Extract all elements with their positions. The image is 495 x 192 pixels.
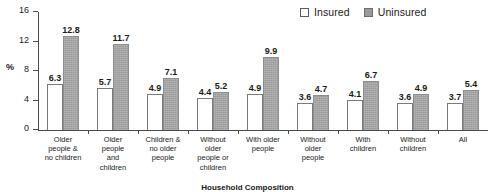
x-axis-title: Household Composition — [0, 183, 495, 192]
bar-value-label: 5.4 — [465, 79, 478, 89]
bar-uninsured: 9.9 — [263, 57, 279, 130]
category-label: With olderpeople — [238, 135, 288, 153]
bar-insured: 3.6 — [297, 103, 313, 130]
bar-value-label: 4.9 — [249, 83, 262, 93]
x-tick — [88, 130, 89, 134]
bar-uninsured: 7.1 — [163, 78, 179, 130]
bar-value-label: 9.9 — [265, 46, 278, 56]
category-label-line: older — [188, 144, 238, 153]
bar-value-label: 4.9 — [415, 83, 428, 93]
bar-group: 3.75.4 — [438, 12, 488, 130]
category-label: Children &no olderpeople — [138, 135, 188, 163]
bar-value-label: 3.6 — [299, 92, 312, 102]
bar-group: 4.16.7 — [338, 12, 388, 130]
bar-uninsured: 5.4 — [463, 90, 479, 130]
category-label-line: With — [338, 135, 388, 144]
bar-chart: Insured Uninsured % 0481216 6.312.85.711… — [0, 0, 495, 192]
category-label: Withoutolderpeople orchildren — [188, 135, 238, 172]
bar-insured: 4.1 — [347, 100, 363, 130]
category-label-line: people or — [188, 153, 238, 162]
category-label-line: people — [88, 144, 138, 153]
category-label-line: people — [288, 153, 338, 162]
x-tick — [338, 130, 339, 134]
bar-group: 4.97.1 — [138, 12, 188, 130]
x-tick — [138, 130, 139, 134]
bar-group: 4.99.9 — [238, 12, 288, 130]
category-label-line: no children — [38, 153, 88, 162]
category-label-line: Without — [288, 135, 338, 144]
bar-value-label: 4.7 — [315, 84, 328, 94]
bar-uninsured: 5.2 — [213, 92, 229, 130]
bar-value-label: 4.1 — [349, 89, 362, 99]
bar-group: 4.45.2 — [188, 12, 238, 130]
bar-value-label: 4.4 — [199, 87, 212, 97]
y-tick-label: 12 — [19, 35, 29, 45]
category-label: Withchildren — [338, 135, 388, 153]
x-tick — [188, 130, 189, 134]
bar-value-label: 5.2 — [215, 81, 228, 91]
bar-value-label: 7.1 — [165, 67, 178, 77]
category-label-line: people — [138, 153, 188, 162]
bar-group: 3.64.7 — [288, 12, 338, 130]
category-label: Olderpeople &no children — [38, 135, 88, 163]
bar-uninsured: 6.7 — [363, 81, 379, 130]
category-label-line: older — [288, 144, 338, 153]
x-axis-line — [38, 130, 488, 131]
category-label-line: Older — [38, 135, 88, 144]
x-tick — [438, 130, 439, 134]
bar-uninsured: 11.7 — [113, 44, 129, 130]
bar-insured: 5.7 — [97, 88, 113, 130]
category-label: All — [438, 135, 488, 144]
bar-value-label: 5.7 — [99, 77, 112, 87]
bar-insured: 3.6 — [397, 103, 413, 130]
y-tick-label: 16 — [19, 5, 29, 15]
bar-value-label: 6.3 — [49, 73, 62, 83]
category-label-line: children — [388, 144, 438, 153]
category-label-line: Older — [88, 135, 138, 144]
category-label-line: and — [88, 153, 138, 162]
category-label-line: With older — [238, 135, 288, 144]
bar-insured: 3.7 — [447, 103, 463, 130]
bar-uninsured: 4.9 — [413, 94, 429, 130]
bar-value-label: 11.7 — [112, 33, 129, 43]
category-label-line: children — [188, 163, 238, 172]
category-label-line: no older — [138, 144, 188, 153]
bar-value-label: 12.8 — [62, 25, 80, 35]
bar-insured: 6.3 — [47, 84, 63, 130]
category-label-line: Children & — [138, 135, 188, 144]
bar-insured: 4.9 — [247, 94, 263, 130]
category-label-line: people & — [38, 144, 88, 153]
category-label-line: children — [88, 163, 138, 172]
y-tick-label: 8 — [24, 64, 29, 74]
category-label-line: children — [338, 144, 388, 153]
bar-uninsured: 4.7 — [313, 95, 329, 130]
category-label: Olderpeopleandchildren — [88, 135, 138, 172]
bar-value-label: 4.9 — [149, 83, 162, 93]
bar-value-label: 3.7 — [449, 92, 462, 102]
x-tick — [238, 130, 239, 134]
bar-insured: 4.4 — [197, 98, 213, 130]
plot-area: 0481216 6.312.85.711.74.97.14.45.24.99.9… — [38, 12, 488, 130]
bar-insured: 4.9 — [147, 94, 163, 130]
bar-uninsured: 12.8 — [63, 36, 79, 130]
category-label: Withoutchildren — [388, 135, 438, 153]
bar-group: 5.711.7 — [88, 12, 138, 130]
bar-group: 3.64.9 — [388, 12, 438, 130]
category-label-line: Without — [388, 135, 438, 144]
x-tick — [388, 130, 389, 134]
y-axis-title: % — [6, 62, 14, 72]
y-tick-label: 4 — [24, 94, 29, 104]
category-label-line: All — [438, 135, 488, 144]
bar-value-label: 3.6 — [399, 92, 412, 102]
category-label-line: Without — [188, 135, 238, 144]
bar-group: 6.312.8 — [38, 12, 88, 130]
category-label-line: people — [238, 144, 288, 153]
y-tick-label: 0 — [24, 123, 29, 133]
bar-value-label: 6.7 — [365, 70, 378, 80]
x-tick — [288, 130, 289, 134]
category-label: Withoutolderpeople — [288, 135, 338, 163]
